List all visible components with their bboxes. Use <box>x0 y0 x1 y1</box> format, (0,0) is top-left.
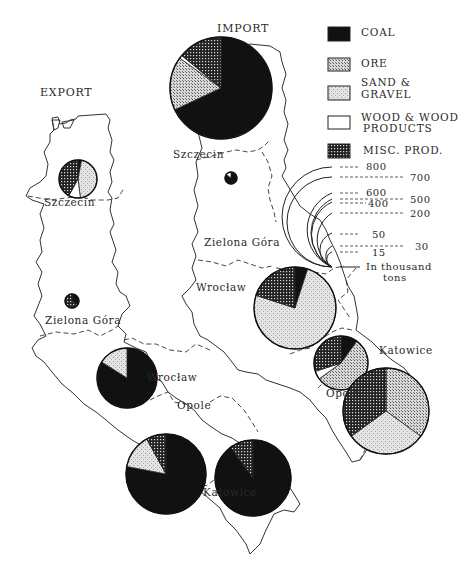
import-pie-zielona-g-ra <box>225 172 237 184</box>
pie-charts <box>59 37 429 516</box>
svg-text:ORE: ORE <box>361 57 388 69</box>
export-label-katowice: Katowice <box>203 486 257 498</box>
export-pie-katowice <box>215 440 291 516</box>
import-label-katowice: Katowice <box>379 344 433 356</box>
import-label-wroclaw: Wrocław <box>196 281 246 293</box>
size-scale: 800 700 600 500 400 200 50 30 15 In thou… <box>282 161 432 283</box>
scale-400: 400 <box>368 198 389 209</box>
svg-text:SAND &: SAND & <box>361 76 411 88</box>
scale-30: 30 <box>415 241 429 252</box>
legend: COAL ORE SAND & GRAVEL WOOD & WOOD PRODU… <box>328 26 459 158</box>
import-pie-szczecin <box>170 37 272 139</box>
import-label-zielona-gora: Zielona Góra <box>204 236 280 248</box>
scale-200: 200 <box>410 208 431 219</box>
export-pie-szczecin <box>59 160 97 198</box>
import-label-opole: Opole <box>326 387 360 399</box>
export-label-szczecin: Szczecin <box>44 196 95 208</box>
pie-slice-sand-gravel <box>78 160 97 198</box>
scale-15: 15 <box>372 247 386 258</box>
legend-item-sand-gravel: SAND & GRAVEL <box>328 76 411 100</box>
legend-item-misc: MISC. PROD. <box>328 144 443 158</box>
scale-unit-2: tons <box>383 272 407 283</box>
import-title: IMPORT <box>217 22 269 35</box>
export-label-zielona-gora: Zielona Góra <box>45 314 121 326</box>
svg-text:GRAVEL: GRAVEL <box>361 88 411 100</box>
scale-unit: In thousand <box>366 261 432 272</box>
scale-50: 50 <box>372 229 386 240</box>
export-lagoon <box>52 120 74 130</box>
import-pie-katowice <box>343 368 429 454</box>
export-pie-zielona-g-ra <box>65 294 79 308</box>
legend-item-wood: WOOD & WOOD PRODUCTS <box>328 111 459 134</box>
svg-text:MISC. PROD.: MISC. PROD. <box>363 144 443 156</box>
export-pie-opole <box>126 434 206 514</box>
scale-500: 500 <box>410 194 431 205</box>
import-pie-wroc-aw <box>254 267 336 349</box>
svg-text:PRODUCTS: PRODUCTS <box>363 122 432 134</box>
legend-item-coal: COAL <box>328 26 395 41</box>
scale-800: 800 <box>366 161 387 172</box>
scale-700: 700 <box>410 172 431 183</box>
svg-text:COAL: COAL <box>361 26 395 38</box>
legend-item-ore: ORE <box>328 57 388 71</box>
import-label-szczecin: Szczecin <box>173 148 224 160</box>
export-label-wroclaw: Wrocław <box>147 371 197 383</box>
export-label-opole: Opole <box>177 399 211 411</box>
scale-600: 600 <box>366 187 387 198</box>
waterway-transport-map: EXPORT IMPORT COAL ORE <box>0 0 468 562</box>
export-title: EXPORT <box>40 86 93 99</box>
